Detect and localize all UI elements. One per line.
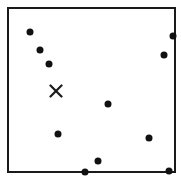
- data-point: [95, 158, 102, 165]
- data-point: [82, 169, 89, 176]
- data-point: [27, 29, 34, 36]
- data-point: [46, 61, 53, 68]
- data-point: [146, 135, 153, 142]
- data-point: [37, 47, 44, 54]
- data-point: [170, 33, 177, 40]
- x-marker-icon: [49, 84, 63, 98]
- scatter-figure: [0, 0, 182, 186]
- data-point: [161, 52, 168, 59]
- data-point: [105, 101, 112, 108]
- data-point: [55, 131, 62, 138]
- data-point: [166, 168, 173, 175]
- plot-area: [9, 9, 174, 171]
- plot-frame: [7, 7, 176, 173]
